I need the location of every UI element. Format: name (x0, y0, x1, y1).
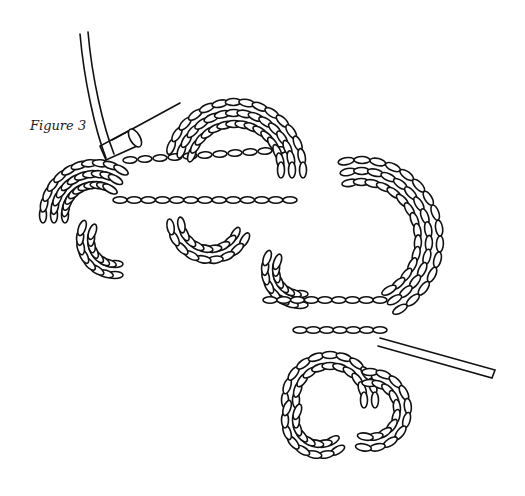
yarn-strand (80, 32, 114, 158)
stitch-fabric (39, 98, 444, 459)
crochet-hook-bottom (378, 338, 495, 378)
crochet-illustration (0, 0, 525, 496)
